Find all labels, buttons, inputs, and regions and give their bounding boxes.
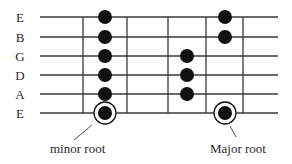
note-dot [98, 87, 112, 101]
note-dots [94, 10, 236, 124]
note-dot [180, 49, 194, 63]
string-label: E [16, 10, 24, 25]
minor-root-label: minor root [50, 141, 106, 156]
string-label: D [15, 68, 24, 83]
string-labels: EBGDAE [15, 10, 25, 121]
string-label: G [15, 49, 24, 64]
note-dot [98, 30, 112, 44]
note-dot [98, 68, 112, 82]
note-dot [180, 68, 194, 82]
string-label: E [16, 106, 24, 121]
fretboard-diagram: EBGDAE minor rootMajor root [0, 0, 292, 164]
note-dot [98, 10, 112, 24]
root-annotations: minor rootMajor root [50, 125, 266, 156]
major-root-label: Major root [210, 141, 266, 156]
note-dot [180, 87, 194, 101]
root-note-dot [98, 106, 112, 120]
note-dot [98, 49, 112, 63]
string-lines [40, 17, 278, 113]
annotation-pointer [74, 125, 92, 140]
annotation-pointer [230, 126, 236, 137]
string-label: A [15, 87, 25, 102]
note-dot [218, 30, 232, 44]
note-dot [218, 10, 232, 24]
root-note-dot [218, 106, 232, 120]
string-label: B [16, 30, 25, 45]
